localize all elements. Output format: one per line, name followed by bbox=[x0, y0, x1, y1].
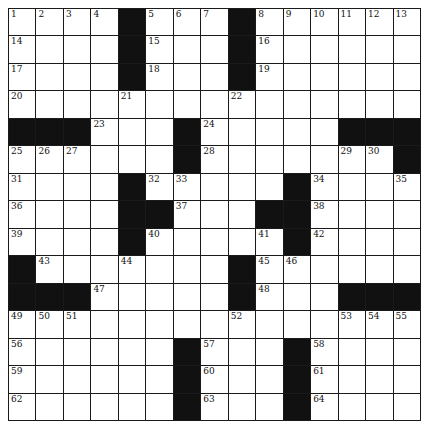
crossword-cell[interactable] bbox=[394, 339, 420, 365]
crossword-cell[interactable] bbox=[339, 64, 365, 90]
crossword-cell[interactable]: 43 bbox=[36, 256, 62, 282]
crossword-cell[interactable] bbox=[256, 119, 282, 145]
crossword-cell[interactable]: 42 bbox=[311, 229, 337, 255]
crossword-cell[interactable] bbox=[119, 146, 145, 172]
crossword-cell[interactable] bbox=[339, 36, 365, 62]
crossword-cell[interactable]: 58 bbox=[311, 339, 337, 365]
crossword-cell[interactable] bbox=[146, 284, 172, 310]
crossword-cell[interactable]: 36 bbox=[9, 201, 35, 227]
crossword-cell[interactable]: 24 bbox=[201, 119, 227, 145]
crossword-cell[interactable]: 49 bbox=[9, 311, 35, 337]
crossword-cell[interactable] bbox=[394, 394, 420, 420]
crossword-cell[interactable] bbox=[311, 36, 337, 62]
crossword-cell[interactable] bbox=[119, 366, 145, 392]
crossword-cell[interactable]: 50 bbox=[36, 311, 62, 337]
crossword-cell[interactable] bbox=[256, 339, 282, 365]
crossword-cell[interactable] bbox=[339, 394, 365, 420]
crossword-cell[interactable]: 32 bbox=[146, 174, 172, 200]
crossword-cell[interactable] bbox=[91, 366, 117, 392]
crossword-cell[interactable] bbox=[91, 36, 117, 62]
crossword-cell[interactable] bbox=[229, 119, 255, 145]
crossword-cell[interactable]: 22 bbox=[229, 91, 255, 117]
crossword-cell[interactable] bbox=[229, 146, 255, 172]
crossword-cell[interactable]: 29 bbox=[339, 146, 365, 172]
crossword-cell[interactable]: 53 bbox=[339, 311, 365, 337]
crossword-cell[interactable]: 40 bbox=[146, 229, 172, 255]
crossword-cell[interactable]: 51 bbox=[64, 311, 90, 337]
crossword-cell[interactable]: 52 bbox=[229, 311, 255, 337]
crossword-cell[interactable] bbox=[366, 201, 392, 227]
crossword-cell[interactable] bbox=[394, 36, 420, 62]
crossword-cell[interactable] bbox=[394, 229, 420, 255]
crossword-cell[interactable] bbox=[119, 339, 145, 365]
crossword-cell[interactable] bbox=[91, 174, 117, 200]
crossword-cell[interactable] bbox=[284, 64, 310, 90]
crossword-cell[interactable] bbox=[91, 339, 117, 365]
crossword-cell[interactable] bbox=[339, 201, 365, 227]
crossword-cell[interactable] bbox=[36, 64, 62, 90]
crossword-cell[interactable]: 35 bbox=[394, 174, 420, 200]
crossword-cell[interactable]: 16 bbox=[256, 36, 282, 62]
crossword-cell[interactable]: 8 bbox=[256, 9, 282, 35]
crossword-cell[interactable] bbox=[366, 366, 392, 392]
crossword-cell[interactable] bbox=[311, 284, 337, 310]
crossword-cell[interactable] bbox=[311, 311, 337, 337]
crossword-cell[interactable] bbox=[201, 174, 227, 200]
crossword-cell[interactable]: 61 bbox=[311, 366, 337, 392]
crossword-cell[interactable] bbox=[256, 394, 282, 420]
crossword-cell[interactable]: 9 bbox=[284, 9, 310, 35]
crossword-cell[interactable] bbox=[339, 339, 365, 365]
crossword-cell[interactable]: 4 bbox=[91, 9, 117, 35]
crossword-cell[interactable] bbox=[36, 394, 62, 420]
crossword-cell[interactable] bbox=[174, 91, 200, 117]
crossword-cell[interactable] bbox=[229, 394, 255, 420]
crossword-cell[interactable] bbox=[119, 394, 145, 420]
crossword-cell[interactable] bbox=[64, 91, 90, 117]
crossword-cell[interactable] bbox=[174, 256, 200, 282]
crossword-cell[interactable]: 6 bbox=[174, 9, 200, 35]
crossword-cell[interactable] bbox=[146, 119, 172, 145]
crossword-cell[interactable] bbox=[284, 146, 310, 172]
crossword-cell[interactable] bbox=[256, 91, 282, 117]
crossword-cell[interactable]: 14 bbox=[9, 36, 35, 62]
crossword-cell[interactable] bbox=[256, 366, 282, 392]
crossword-cell[interactable] bbox=[174, 36, 200, 62]
crossword-cell[interactable] bbox=[36, 366, 62, 392]
crossword-cell[interactable] bbox=[64, 339, 90, 365]
crossword-cell[interactable]: 39 bbox=[9, 229, 35, 255]
crossword-cell[interactable] bbox=[201, 64, 227, 90]
crossword-cell[interactable] bbox=[311, 91, 337, 117]
crossword-cell[interactable] bbox=[119, 284, 145, 310]
crossword-cell[interactable] bbox=[91, 311, 117, 337]
crossword-cell[interactable]: 18 bbox=[146, 64, 172, 90]
crossword-cell[interactable] bbox=[229, 201, 255, 227]
crossword-cell[interactable] bbox=[311, 119, 337, 145]
crossword-cell[interactable] bbox=[174, 229, 200, 255]
crossword-cell[interactable] bbox=[256, 174, 282, 200]
crossword-cell[interactable] bbox=[366, 64, 392, 90]
crossword-cell[interactable]: 45 bbox=[256, 256, 282, 282]
crossword-cell[interactable] bbox=[394, 256, 420, 282]
crossword-cell[interactable]: 57 bbox=[201, 339, 227, 365]
crossword-cell[interactable]: 30 bbox=[366, 146, 392, 172]
crossword-cell[interactable]: 27 bbox=[64, 146, 90, 172]
crossword-cell[interactable] bbox=[146, 394, 172, 420]
crossword-cell[interactable] bbox=[64, 256, 90, 282]
crossword-cell[interactable] bbox=[284, 119, 310, 145]
crossword-cell[interactable]: 37 bbox=[174, 201, 200, 227]
crossword-cell[interactable] bbox=[339, 174, 365, 200]
crossword-cell[interactable] bbox=[366, 174, 392, 200]
crossword-cell[interactable] bbox=[229, 366, 255, 392]
crossword-cell[interactable] bbox=[284, 91, 310, 117]
crossword-cell[interactable]: 33 bbox=[174, 174, 200, 200]
crossword-cell[interactable] bbox=[146, 146, 172, 172]
crossword-cell[interactable] bbox=[229, 229, 255, 255]
crossword-cell[interactable] bbox=[174, 284, 200, 310]
crossword-cell[interactable] bbox=[64, 394, 90, 420]
crossword-cell[interactable] bbox=[91, 394, 117, 420]
crossword-cell[interactable]: 41 bbox=[256, 229, 282, 255]
crossword-cell[interactable] bbox=[64, 201, 90, 227]
crossword-cell[interactable] bbox=[394, 64, 420, 90]
crossword-cell[interactable]: 15 bbox=[146, 36, 172, 62]
crossword-cell[interactable] bbox=[201, 256, 227, 282]
